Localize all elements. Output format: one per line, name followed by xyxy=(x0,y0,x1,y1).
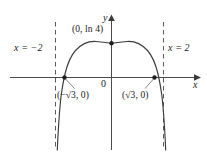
graph-figure: y x 0 x = −2 x = 2 (0, ln 4) (−√3, 0) (√… xyxy=(0,0,207,158)
left-root-point-label: (−√3, 0) xyxy=(57,91,89,101)
vertex-point-marker xyxy=(109,41,113,45)
y-axis-label: y xyxy=(103,13,108,23)
asymptote-label-right: x = 2 xyxy=(168,43,190,53)
x-axis-label: x xyxy=(193,80,198,90)
right-root-point-label: (√3, 0) xyxy=(122,91,149,101)
left-root-leader-line xyxy=(66,79,75,89)
right-root-leader-line xyxy=(145,79,154,89)
asymptote-label-left: x = −2 xyxy=(14,43,43,53)
origin-label: 0 xyxy=(101,79,106,89)
vertex-point-label: (0, ln 4) xyxy=(72,25,103,35)
y-axis-arrowhead xyxy=(108,15,115,22)
y-axis xyxy=(108,15,115,151)
